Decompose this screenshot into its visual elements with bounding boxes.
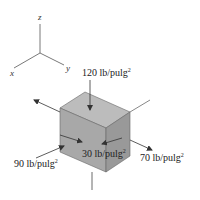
top-stress-label: 120 lb/pulg2 — [82, 67, 131, 78]
front-stress-label: 30 lb/pulg2 — [82, 148, 126, 159]
left-tension-arrow — [34, 100, 60, 112]
left-stress-label: 90 lb/pulg2 — [14, 158, 58, 169]
stress-cube — [60, 92, 130, 172]
coordinate-axes — [14, 24, 64, 68]
y-axis-label: y — [66, 64, 70, 73]
stress-element-diagram — [0, 0, 200, 200]
right-tension-arrow — [130, 140, 152, 150]
x-axis-label: x — [10, 69, 14, 78]
right-stress-label: 70 lb/pulg2 — [140, 152, 184, 163]
z-axis-label: z — [38, 13, 42, 22]
x-axis — [14, 53, 40, 68]
right-axis-line — [130, 100, 150, 112]
y-axis — [40, 53, 64, 65]
